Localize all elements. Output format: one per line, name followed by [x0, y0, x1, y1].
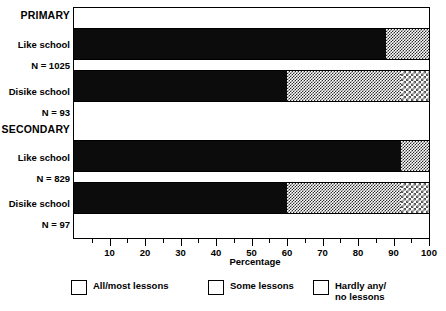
x-tick-label: 80	[353, 247, 364, 258]
x-tick-label: 60	[282, 247, 293, 258]
x-tick-minor	[234, 239, 235, 243]
chart-figure: PRIMARY Like school N = 1025 Disike scho…	[0, 0, 446, 311]
bar-primary-like	[74, 28, 429, 60]
bar-secondary-like	[74, 140, 429, 172]
x-tick-label: 40	[211, 247, 222, 258]
bar-segment-all-most	[74, 71, 287, 101]
row-label-name: Like school	[18, 152, 70, 163]
legend-label: Some lessons	[230, 280, 294, 292]
row-label-n: N = 97	[42, 219, 70, 230]
x-tick-label: 90	[388, 247, 399, 258]
row-label-n: N = 829	[36, 173, 70, 184]
legend-item-some: Some lessons	[208, 280, 294, 295]
group-heading-primary: PRIMARY	[0, 10, 70, 22]
legend-label: All/most lessons	[93, 280, 169, 292]
legend-swatch-hardly-any	[313, 280, 329, 295]
chart-legend: All/most lessons Some lessons Hardly any…	[0, 278, 446, 311]
legend-swatch-all-most	[71, 280, 87, 295]
x-tick-minor	[269, 239, 270, 243]
x-tick-major	[287, 239, 288, 246]
legend-item-all-most: All/most lessons	[71, 280, 169, 295]
x-axis-title: Percentage	[229, 256, 280, 267]
x-tick-major	[323, 239, 324, 246]
row-label-name: Disike school	[9, 86, 70, 97]
x-tick-major	[145, 239, 146, 246]
row-label-name: Like school	[18, 39, 70, 50]
bar-segment-some	[386, 29, 429, 59]
row-label-secondary-dislike: Disike school N = 97	[0, 188, 70, 231]
bar-segment-all-most	[74, 29, 386, 59]
x-tick-minor	[340, 239, 341, 243]
bar-segment-all-most	[74, 183, 287, 213]
bar-segment-some	[287, 183, 401, 213]
x-tick-minor	[198, 239, 199, 243]
bar-segment-some	[401, 141, 429, 171]
bar-secondary-dislike	[74, 182, 429, 214]
x-tick-major	[429, 239, 430, 246]
bar-segment-hardly-any	[401, 71, 429, 101]
row-label-primary-dislike: Disike school N = 93	[0, 76, 70, 119]
x-tick-minor	[127, 239, 128, 243]
x-tick-minor	[305, 239, 306, 243]
row-label-name: Disike school	[9, 198, 70, 209]
x-tick-major	[216, 239, 217, 246]
x-tick-major	[110, 239, 111, 246]
x-tick-label: 10	[104, 247, 115, 258]
x-tick-major	[181, 239, 182, 246]
legend-item-hardly-any: Hardly any/ no lessons	[313, 280, 386, 303]
x-tick-label: 20	[140, 247, 151, 258]
x-tick-minor	[92, 239, 93, 243]
x-tick-major	[358, 239, 359, 246]
x-tick-label: 70	[317, 247, 328, 258]
bar-segment-all-most	[74, 141, 401, 171]
row-label-primary-like: Like school N = 1025	[0, 29, 70, 72]
x-tick-minor	[376, 239, 377, 243]
x-tick-minor	[163, 239, 164, 243]
legend-label: Hardly any/ no lessons	[335, 280, 386, 303]
bar-primary-dislike	[74, 70, 429, 102]
legend-swatch-some	[208, 280, 224, 295]
group-heading-secondary: SECONDARY	[0, 124, 70, 136]
plot-area	[73, 7, 430, 239]
row-label-n: N = 93	[42, 107, 70, 118]
x-tick-label: 30	[175, 247, 186, 258]
row-label-n: N = 1025	[31, 60, 70, 71]
bar-segment-some	[287, 71, 401, 101]
x-tick-minor	[411, 239, 412, 243]
x-tick-label: 100	[421, 247, 437, 258]
x-tick-major	[394, 239, 395, 246]
x-tick-major	[252, 239, 253, 246]
bar-segment-hardly-any	[401, 183, 429, 213]
row-label-secondary-like: Like school N = 829	[0, 142, 70, 185]
